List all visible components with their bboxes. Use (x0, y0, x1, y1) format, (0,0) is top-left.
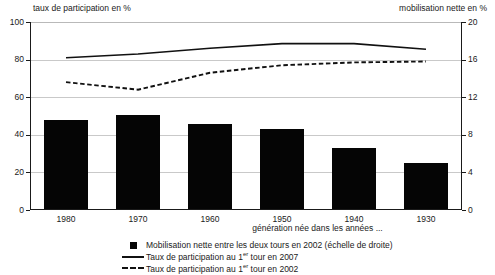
axis-tick (26, 210, 30, 211)
ordinal-superscript: er (243, 263, 248, 269)
dashed-line-icon (122, 267, 144, 269)
legend-label: Taux de participation au 1er tour en 200… (146, 251, 298, 262)
axis-tick (462, 135, 466, 136)
legend-solid-line-icon (120, 256, 146, 258)
axis-right (461, 22, 462, 210)
legend-item: Taux de participation au 1er tour en 200… (120, 252, 480, 263)
right-axis-tick-label: 20 (468, 18, 477, 27)
line-series (30, 22, 462, 210)
legend-item: Mobilisation nette entre les deux tours … (120, 240, 480, 251)
legend-dashed-line-icon (120, 267, 146, 269)
plot-area: 020406080100 048121620 19801970196019501… (30, 22, 462, 210)
axis-left (30, 22, 31, 210)
line-participation-2002 (66, 61, 426, 89)
legend-label: Mobilisation nette entre les deux tours … (146, 240, 393, 250)
axis-tick (462, 60, 466, 61)
ordinal-superscript: er (243, 251, 248, 257)
left-axis-tick-label: 80 (15, 55, 24, 64)
right-axis-tick-label: 0 (468, 206, 473, 215)
axis-tick (462, 97, 466, 98)
left-axis-caption: taux de participation en % (33, 3, 131, 13)
left-axis-tick-label: 40 (15, 130, 24, 139)
axis-tick (462, 172, 466, 173)
x-axis-title: génération née dans les années ... (0, 223, 495, 233)
legend-label: Taux de participation au 1er tour en 200… (146, 263, 298, 274)
axis-bottom (30, 209, 462, 210)
left-axis-tick-label: 0 (19, 206, 24, 215)
legend-square-icon (120, 242, 146, 249)
right-axis-tick-label: 8 (468, 130, 473, 139)
line-participation-2007 (66, 44, 426, 58)
right-axis-tick-label: 12 (468, 93, 477, 102)
axis-tick (462, 22, 466, 23)
left-axis-tick-label: 100 (10, 18, 24, 27)
square-icon (130, 242, 137, 249)
right-axis-tick-label: 16 (468, 55, 477, 64)
chart-legend: Mobilisation nette entre les deux tours … (120, 240, 480, 275)
solid-line-icon (122, 256, 144, 258)
right-axis-caption: mobilisation nette en % (399, 3, 487, 13)
left-axis-tick-label: 60 (15, 93, 24, 102)
left-axis-tick-label: 20 (15, 168, 24, 177)
axis-top (30, 22, 462, 23)
axis-tick (462, 210, 466, 211)
right-axis-tick-label: 4 (468, 168, 473, 177)
legend-item: Taux de participation au 1er tour en 200… (120, 263, 480, 274)
